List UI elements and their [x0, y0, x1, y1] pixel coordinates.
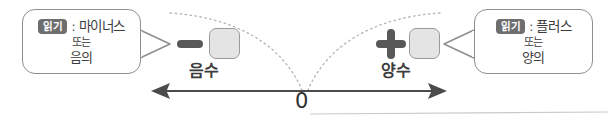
- axis-label-positive: 양수: [381, 63, 410, 79]
- callout-positive: 읽기 : 플러스 또는 양의: [474, 9, 593, 74]
- callout-positive-separator: :: [529, 21, 533, 33]
- axis-label-zero: 0: [295, 91, 308, 112]
- callout-positive-word-main: 플러스: [536, 20, 571, 34]
- callout-negative-word-alt: 음의: [70, 51, 93, 64]
- callout-positive-word-alt: 양의: [522, 51, 545, 64]
- negative-value-box: [209, 28, 240, 59]
- callout-negative-separator: :: [71, 21, 75, 33]
- callout-tail-left: [140, 30, 170, 58]
- read-badge-positive: 읽기: [496, 19, 525, 35]
- callout-positive-line1: 읽기 : 플러스: [496, 19, 571, 35]
- plus-sign-icon: [376, 29, 406, 59]
- callout-negative-line1: 읽기 : 마이너스: [38, 19, 125, 35]
- number-line-diagram: 읽기 : 마이너스 또는 음의 읽기 : 플러스 또는 양의 음수 양수 0: [0, 0, 608, 120]
- bottom-rule: [310, 112, 608, 114]
- callout-negative-word-main: 마이너스: [79, 20, 125, 34]
- callout-tail-right: [444, 30, 474, 58]
- callout-negative: 읽기 : 마이너스 또는 음의: [22, 9, 141, 74]
- callout-positive-word-or: 또는: [524, 37, 543, 48]
- read-badge-negative: 읽기: [38, 19, 67, 35]
- minus-sign-icon: [177, 40, 203, 48]
- axis-label-negative: 음수: [189, 63, 218, 79]
- callout-negative-word-or: 또는: [72, 37, 91, 48]
- positive-value-box: [409, 28, 440, 59]
